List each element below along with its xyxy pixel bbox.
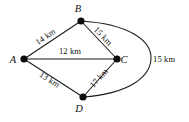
- edge-labels-group: 14 km 15 km 12 km 13 km 17 km 15 km: [33, 24, 175, 89]
- node-a: [20, 55, 27, 62]
- edge-label-a-b: 14 km: [33, 26, 57, 47]
- edge-label-d-c: 17 km: [88, 66, 110, 89]
- vertex-label-a: A: [9, 54, 17, 65]
- node-d: [79, 93, 86, 100]
- edge-label-a-d: 13 km: [38, 69, 62, 90]
- edge-label-b-d: 15 km: [153, 54, 175, 64]
- weighted-graph-figure: A B C D 14 km 15 km 12 km 13 km 17 km 15…: [0, 0, 189, 122]
- node-b: [77, 17, 84, 24]
- vertex-label-d: D: [74, 103, 83, 114]
- graph-canvas: A B C D 14 km 15 km 12 km 13 km 17 km 15…: [0, 0, 189, 122]
- edge-label-a-c: 12 km: [59, 46, 81, 56]
- vertex-label-c: C: [120, 54, 128, 65]
- vertex-label-b: B: [75, 3, 82, 14]
